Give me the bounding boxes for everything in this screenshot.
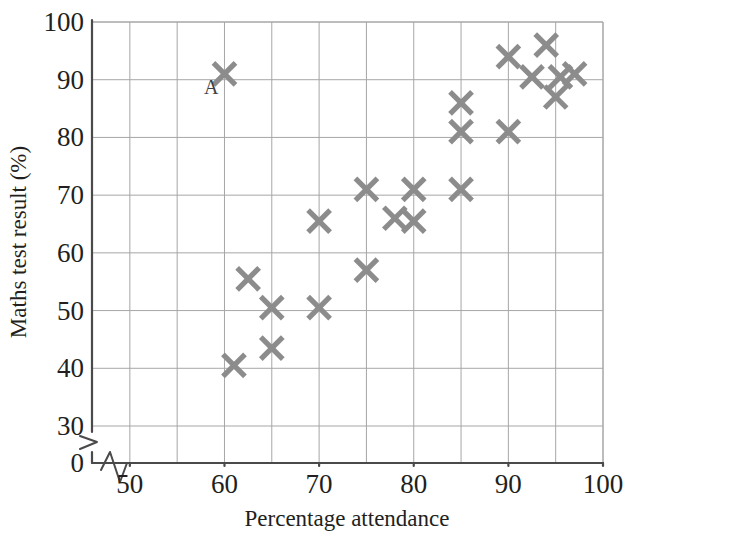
x-tick-label-90: 90 — [495, 469, 522, 499]
y-tick-label-90: 90 — [57, 65, 84, 95]
x-tick-label-80: 80 — [400, 469, 427, 499]
y-axis-title: Maths test result (%) — [6, 146, 31, 338]
x-axis-tick-labels: 5060708090100 — [116, 469, 623, 499]
x-tick-label-60: 60 — [211, 469, 238, 499]
y-tick-label-60: 60 — [57, 238, 84, 268]
y-tick-label-0: 0 — [71, 448, 85, 478]
y-tick-label-80: 80 — [57, 122, 84, 152]
x-axis-title: Percentage attendance — [245, 506, 450, 531]
point-annotations: A — [204, 76, 219, 98]
x-tick-label-100: 100 — [583, 469, 624, 499]
y-axis-tick-labels: 030405060708090100 — [44, 7, 85, 478]
y-tick-label-30: 30 — [57, 411, 84, 441]
y-tick-label-40: 40 — [57, 353, 84, 383]
y-tick-label-100: 100 — [44, 7, 85, 37]
scatter-chart: A 030405060708090100 5060708090100 Perce… — [0, 0, 749, 552]
x-tick-label-50: 50 — [116, 469, 143, 499]
x-tick-label-70: 70 — [306, 469, 333, 499]
chart-canvas: A 030405060708090100 5060708090100 Perce… — [0, 0, 749, 552]
annotation-label: A — [204, 76, 219, 98]
y-tick-label-70: 70 — [57, 180, 84, 210]
plot-area-background — [92, 22, 603, 463]
y-tick-label-50: 50 — [57, 296, 84, 326]
